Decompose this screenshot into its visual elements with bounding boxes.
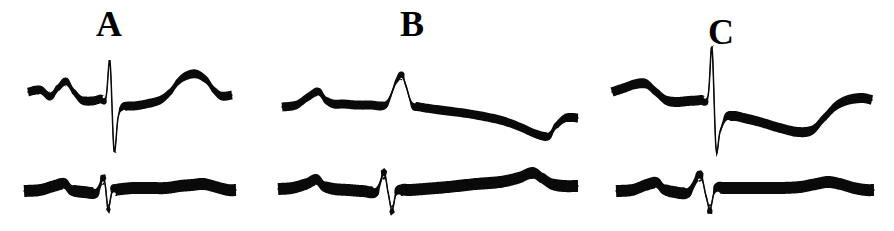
ecg-trace-b-upper xyxy=(281,71,578,141)
ecg-trace-c-lower xyxy=(616,170,874,214)
ecg-trace-core-c-upper xyxy=(612,47,872,152)
ecg-trace-a-lower xyxy=(24,174,236,214)
ecg-trace-b-lower xyxy=(278,167,578,216)
ecg-trace-c-upper xyxy=(611,45,874,158)
ecg-figure: A B C xyxy=(0,0,894,231)
ecg-trace-a-upper xyxy=(27,60,232,153)
ecg-traces-canvas xyxy=(0,0,894,231)
